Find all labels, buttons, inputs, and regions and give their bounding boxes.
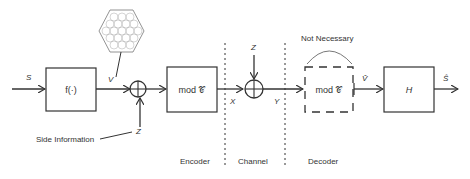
side-info-adder bbox=[130, 81, 146, 97]
side-info-pointer bbox=[100, 132, 132, 139]
section-channel-label: Channel bbox=[238, 157, 268, 166]
h-block-label: H bbox=[406, 85, 413, 95]
signal-s-hat-label: Ŝ bbox=[443, 74, 449, 83]
signal-v-label: V bbox=[108, 75, 114, 84]
block-diagram: S f(·) V Z Side Information mod 𝒞 X bbox=[0, 0, 470, 179]
side-information-label: Side Information bbox=[36, 135, 94, 144]
signal-v-hat-label: V̂ bbox=[362, 74, 368, 83]
not-necessary-arc bbox=[307, 51, 352, 64]
section-encoder-label: Encoder bbox=[180, 157, 210, 166]
signal-y-label: Y bbox=[274, 97, 280, 106]
mod-decoder-label: mod 𝒞 bbox=[315, 85, 343, 95]
signal-z-channel-label: Z bbox=[250, 43, 257, 52]
not-necessary-label: Not Necessary bbox=[301, 34, 353, 43]
mod-encoder-label: mod 𝒞 bbox=[178, 85, 206, 95]
channel-adder bbox=[245, 80, 263, 98]
lattice-hexagon-icon bbox=[99, 10, 144, 77]
signal-s-label: S bbox=[26, 73, 32, 82]
section-decoder-label: Decoder bbox=[308, 157, 339, 166]
f-block-label: f(·) bbox=[65, 85, 77, 95]
signal-x-label: X bbox=[229, 97, 236, 106]
signal-z-side-label: Z bbox=[135, 127, 142, 136]
